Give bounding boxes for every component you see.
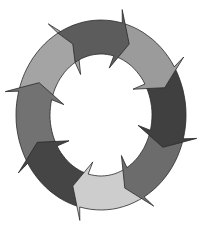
cycle-diagram: [0, 0, 205, 229]
cycle-arrows-ring: [0, 0, 205, 229]
